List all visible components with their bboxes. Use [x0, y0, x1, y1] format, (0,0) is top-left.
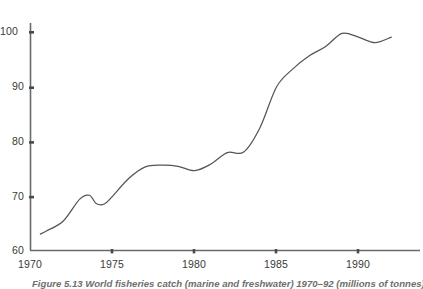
line-chart-plot [0, 0, 423, 289]
x-tick-label-1990: 1990 [335, 258, 381, 270]
figure-container: 60 70 80 90 100 1970 1975 1980 1985 1990… [0, 0, 423, 289]
x-tick-label-1970: 1970 [7, 258, 53, 270]
x-tick-label-1980: 1980 [171, 258, 217, 270]
figure-caption: Figure 5.13 World fisheries catch (marin… [32, 278, 423, 289]
data-series-line [40, 33, 391, 234]
y-tick-label-70: 70 [0, 190, 24, 202]
y-tick-label-60: 60 [0, 244, 24, 256]
y-tick-label-100: 100 [0, 25, 18, 37]
y-tick-label-80: 80 [0, 135, 24, 147]
x-axis-ticks [111, 249, 360, 253]
x-tick-label-1985: 1985 [253, 258, 299, 270]
x-tick-label-1975: 1975 [89, 258, 135, 270]
y-tick-label-90: 90 [0, 80, 24, 92]
